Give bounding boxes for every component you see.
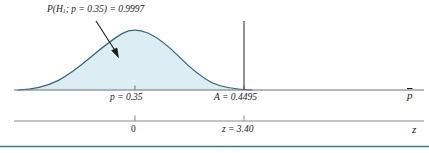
z-axis-tick-label-value: z = 3.40 [222, 125, 253, 135]
p-bar-axis-label: p [407, 90, 413, 101]
normal-curve-shaded-area [18, 30, 252, 90]
statistics-figure: P(H1; p = 0.35) = 0.9997 p = 0.35 A = 0.… [0, 0, 429, 153]
p-bar-axis-tick-label-area: A = 0.4495 [214, 93, 257, 103]
z-axis-tick-label-zero: 0 [131, 125, 136, 135]
p-bar-axis-tick-label-mean: p = 0.35 [110, 93, 143, 103]
probability-annotation-label: P(H1; p = 0.35) = 0.9997 [47, 5, 144, 15]
z-axis-label: z [412, 124, 416, 135]
distribution-plot [0, 0, 429, 153]
